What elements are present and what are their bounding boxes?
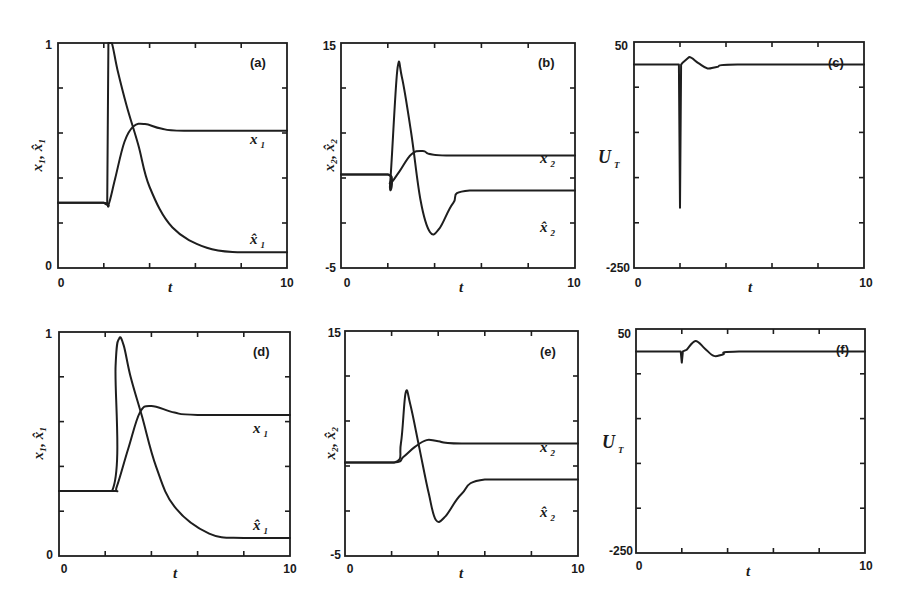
panel-b-ytick-top: 15	[323, 39, 337, 53]
panel-a-xtick-left: 0	[58, 276, 65, 290]
panel-e: (e) 15 -5 0 10 t x₂, x̂₂ x2 x̂2	[322, 326, 585, 581]
panel-a-ytick-bottom: 0	[45, 259, 52, 273]
panel-b-ylabel: x₂, x̂₂	[321, 139, 337, 173]
panel-e-tag: (e)	[540, 344, 556, 359]
panel-c-ticks	[634, 42, 864, 268]
panel-d-xlabel: t	[173, 565, 178, 581]
panel-a-ylabel: x₁, x̂₁	[29, 139, 45, 173]
panel-a-ytick-top: 1	[45, 38, 52, 52]
panel-d-tag: (d)	[253, 344, 270, 359]
panel-b-ytick-bottom: -5	[325, 261, 336, 275]
panel-d-ytick-top: 1	[45, 327, 52, 341]
panel-c-xtick-right: 10	[859, 276, 873, 290]
panel-e-ytick-bottom: -5	[330, 548, 341, 562]
panel-e-ytick-top: 15	[328, 326, 342, 340]
panel-a: (a) 1 0 0 10 t x₁, x̂₁ x1 x̂1	[29, 38, 294, 295]
panel-b: (b) 15 -5 0 10 t x₂, x̂₂ x2 x̂2	[321, 39, 581, 295]
panel-f-xlabel: t	[746, 563, 751, 579]
panel-d-x1hat-curve	[59, 337, 290, 538]
panel-d: (d) 1 0 0 10 t x₁, x̂₁ x1 x̂1	[30, 327, 297, 581]
panel-f: (f) 50 -250 0 10 t UT	[602, 327, 873, 579]
panel-f-xtick-right: 10	[859, 559, 873, 573]
panel-f-tag: (f)	[836, 342, 849, 357]
figure-canvas: (a) 1 0 0 10 t x₁, x̂₁ x1 x̂1 (b) 15 -5 …	[0, 0, 908, 602]
panel-a-xtick-right: 10	[280, 276, 294, 290]
panel-d-xtick-left: 0	[61, 562, 68, 576]
panel-f-ytick-bottom: -250	[609, 544, 633, 558]
panel-e-x2hat-curve	[345, 390, 578, 522]
panel-e-xtick-left: 0	[347, 562, 354, 576]
panel-a-x1hat-label: x̂1	[249, 231, 265, 250]
panel-c-xlabel: t	[748, 279, 753, 295]
panel-e-x2-label: x2	[539, 439, 556, 458]
panel-f-ytick-top: 50	[618, 327, 632, 341]
panel-c-xtick-left: 0	[635, 276, 642, 290]
panel-b-x2hat-curve	[341, 62, 575, 235]
panel-d-xtick-right: 10	[283, 562, 297, 576]
panel-f-ylabel: UT	[602, 432, 624, 455]
panel-d-x1-curve	[59, 406, 290, 491]
panel-b-x2-label: x2	[539, 150, 556, 169]
panel-e-x2hat-label: x̂2	[539, 504, 556, 523]
panel-d-x1-label: x1	[252, 420, 268, 439]
panel-b-tag: (b)	[538, 55, 555, 70]
panel-b-xtick-left: 0	[344, 276, 351, 290]
panel-b-xlabel: t	[459, 279, 464, 295]
panel-d-ytick-bottom: 0	[46, 548, 53, 562]
panel-e-xlabel: t	[459, 565, 464, 581]
panel-d-ylabel: x₁, x̂₁	[30, 427, 46, 461]
panel-c-ut-curve	[634, 57, 864, 208]
panel-c-tag: (c)	[828, 55, 844, 70]
panel-b-x2hat-label: x̂2	[539, 219, 556, 238]
panel-a-x1hat-curve	[58, 43, 287, 252]
panel-b-xtick-right: 10	[567, 276, 581, 290]
panel-c-ylabel: UT	[598, 147, 620, 170]
panel-e-xtick-right: 10	[571, 562, 585, 576]
panel-f-ut-curve	[636, 341, 865, 363]
panel-c-frame	[634, 42, 864, 268]
panel-f-ticks	[636, 329, 865, 553]
panel-c-ytick-bottom: -250	[606, 261, 630, 275]
panel-c-ytick-top: 50	[615, 39, 629, 53]
panel-a-xlabel: t	[168, 279, 173, 295]
panel-e-ylabel: x₂, x̂₂	[322, 427, 338, 461]
panel-a-x1-label: x1	[249, 131, 265, 150]
panel-c: (c) 50 -250 0 10 t UT	[598, 39, 873, 295]
panel-a-tag: (a)	[250, 55, 266, 70]
panel-f-frame	[636, 329, 865, 553]
panel-f-xtick-left: 0	[636, 559, 643, 573]
panel-d-x1hat-label: x̂1	[252, 517, 268, 536]
